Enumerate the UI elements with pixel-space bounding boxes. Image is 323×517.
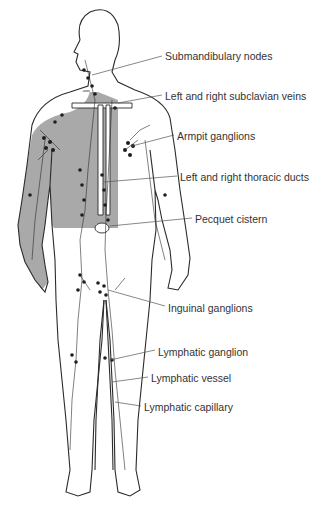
lymphatic-system-diagram: Submandibulary nodes Left and right subc… [0, 0, 323, 517]
label-thoracic-ducts: Left and right thoracic ducts [180, 171, 309, 183]
label-armpit-ganglions: Armpit ganglions [177, 130, 255, 142]
label-lymphatic-ganglion: Lymphatic ganglion [158, 346, 248, 358]
label-lymphatic-capillary: Lymphatic capillary [144, 401, 233, 413]
label-inguinal-ganglions: Inguinal ganglions [168, 302, 253, 314]
pecquet-cistern [95, 223, 109, 233]
label-pecquet-cistern: Pecquet cistern [195, 213, 267, 225]
body-illustration [0, 0, 323, 517]
label-lymphatic-vessel: Lymphatic vessel [151, 372, 231, 384]
body-outline [18, 10, 190, 496]
label-subclavian-veins: Left and right subclavian veins [165, 90, 306, 102]
label-submandibulary-nodes: Submandibulary nodes [165, 50, 272, 62]
